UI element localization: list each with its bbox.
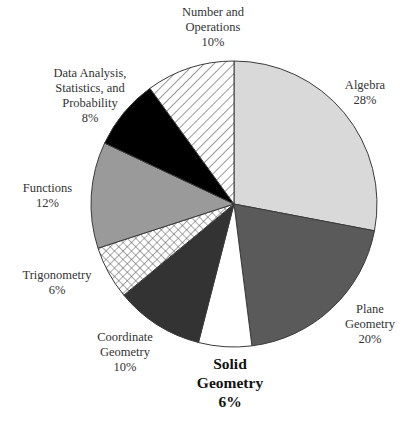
label-solid-geometry: Solid Geometry 6% [180, 354, 280, 411]
label-trigonometry: Trigonometry 6% [12, 268, 102, 298]
label-algebra: Algebra 28% [330, 78, 400, 108]
label-number-operations: Number and Operations 10% [148, 5, 278, 50]
label-functions: Functions 12% [10, 181, 85, 211]
label-coordinate-geometry: Coordinate Geometry 10% [85, 330, 165, 375]
label-data-analysis: Data Analysis, Statistics, and Probabili… [35, 66, 145, 126]
label-plane-geometry: Plane Geometry 20% [335, 302, 405, 347]
